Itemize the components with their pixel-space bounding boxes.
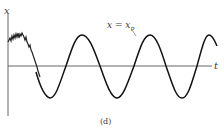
figure-canvas: x t x = xp (d) <box>0 0 224 131</box>
transient-curve <box>8 33 40 77</box>
t-axis-label: t <box>214 60 219 71</box>
figure-caption: (d) <box>100 117 111 126</box>
curve-label: x = xp <box>107 20 134 32</box>
y-axis-label: x <box>4 5 10 16</box>
steady-state-curve <box>36 35 217 98</box>
